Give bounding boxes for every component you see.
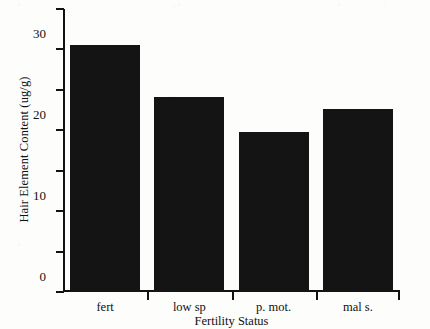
y-axis-tick: 60 (56, 48, 64, 50)
x-axis-tick (316, 292, 318, 300)
y-axis-tick-label: 20 (33, 107, 46, 123)
bar: p. mot. (239, 132, 309, 292)
y-axis-tick: 40 (56, 129, 64, 131)
y-axis-tick-label: 30 (33, 26, 46, 42)
y-axis-tick: 20 (56, 210, 64, 212)
x-axis-category-label: fert (96, 300, 113, 315)
y-axis-spine (63, 9, 65, 292)
y-axis-tick: 0 (56, 291, 64, 293)
bar: fert (70, 45, 140, 292)
y-axis-tick-label: 0 (40, 269, 47, 285)
x-axis-tick (147, 292, 149, 300)
bar-chart-figure: Hair Element Content (ug/g) 010203040506… (0, 0, 430, 329)
bar: low sp (154, 97, 224, 292)
y-axis-tick-label: 10 (33, 188, 46, 204)
y-axis-title: Hair Element Content (ug/g) (17, 30, 32, 270)
y-axis-tick: 50 (56, 89, 64, 91)
x-axis-tick (232, 292, 234, 300)
y-axis-tick: 30 (56, 170, 64, 172)
x-axis-tick (398, 292, 400, 300)
y-axis-tick: 10 (56, 251, 64, 253)
x-axis-category-label: mal s. (343, 300, 373, 315)
plot-area: 010203040506070 fertlow spp. mot.mal s. (63, 9, 400, 292)
x-axis-category-label: low sp (173, 300, 206, 315)
x-axis-category-label: p. mot. (256, 300, 291, 315)
bar: mal s. (323, 109, 393, 292)
x-axis-title: Fertility Status (63, 314, 400, 329)
y-axis-tick: 70 (56, 8, 64, 10)
